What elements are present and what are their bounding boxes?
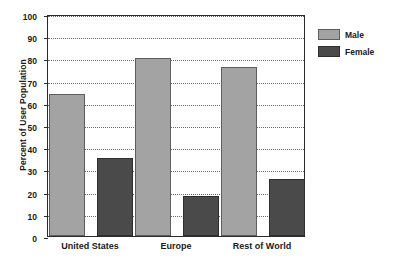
gridline-100	[48, 16, 304, 17]
gridline-80	[48, 60, 304, 61]
y-tick-10: 10	[44, 216, 48, 217]
y-tick-label-90: 90	[28, 34, 37, 44]
y-tick-label-100: 100	[23, 12, 37, 22]
y-tick-label-20: 20	[28, 190, 37, 200]
y-tick-40: 40	[44, 149, 48, 150]
y-tick-label-30: 30	[28, 167, 37, 177]
y-tick-90: 90	[44, 38, 48, 39]
legend-swatch-male	[318, 29, 340, 40]
bar-europe-male	[135, 58, 171, 236]
y-tick-label-10: 10	[28, 212, 37, 222]
gridline-70	[48, 83, 304, 84]
gridline-50	[48, 127, 304, 128]
y-tick-0: 0	[44, 238, 48, 239]
y-tick-label-40: 40	[28, 145, 37, 155]
y-tick-30: 30	[44, 171, 48, 172]
gridline-90	[48, 38, 304, 39]
gridline-30	[48, 171, 304, 172]
x-axis-label-rest-of-world: Rest of World	[202, 241, 322, 251]
legend-label-female: Female	[345, 47, 374, 57]
y-tick-100: 100	[44, 16, 48, 17]
plot-area: 0102030405060708090100	[47, 15, 305, 237]
y-axis-title: Percent of User Population	[18, 30, 28, 200]
y-tick-50: 50	[44, 127, 48, 128]
y-tick-label-70: 70	[28, 79, 37, 89]
y-tick-70: 70	[44, 83, 48, 84]
y-tick-60: 60	[44, 105, 48, 106]
gridline-40	[48, 149, 304, 150]
gridline-20	[48, 194, 304, 195]
legend-item-female: Female	[318, 46, 374, 57]
y-tick-label-60: 60	[28, 101, 37, 111]
y-tick-20: 20	[44, 194, 48, 195]
gridline-60	[48, 105, 304, 106]
bar-rest-of-world-female	[269, 179, 305, 236]
legend-label-male: Male	[345, 30, 364, 40]
bar-europe-female	[183, 196, 219, 236]
bar-rest-of-world-male	[221, 67, 257, 236]
legend-item-male: Male	[318, 29, 374, 40]
legend-swatch-female	[318, 46, 340, 57]
bar-united-states-female	[97, 158, 133, 236]
y-tick-label-50: 50	[28, 123, 37, 133]
legend: MaleFemale	[318, 29, 374, 57]
gridline-10	[48, 216, 304, 217]
y-tick-label-80: 80	[28, 56, 37, 66]
bar-united-states-male	[49, 94, 85, 236]
y-tick-80: 80	[44, 60, 48, 61]
bar-chart-figure: Percent of User Population 0102030405060…	[0, 0, 394, 265]
